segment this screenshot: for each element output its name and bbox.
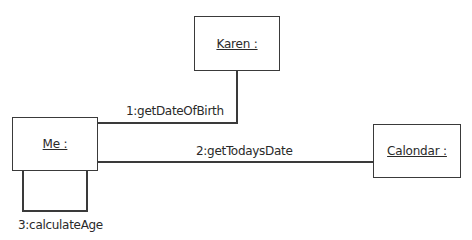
object-karen[interactable]: Karen :	[194, 16, 280, 71]
object-me[interactable]: Me :	[12, 117, 98, 171]
link-me-karen-vertical	[236, 70, 238, 124]
link-me-calendar	[97, 161, 374, 163]
message-calculate-age: 3:calculateAge	[18, 218, 103, 232]
self-loop-left	[22, 170, 24, 211]
object-me-label: Me :	[43, 137, 68, 151]
link-me-karen-horizontal	[97, 122, 238, 124]
self-loop-right	[86, 170, 88, 211]
message-get-todays-date: 2:getTodaysDate	[196, 144, 293, 158]
object-calendar-label: Calondar :	[387, 144, 447, 158]
self-loop-bottom	[22, 210, 88, 212]
message-get-date-of-birth: 1:getDateOfBirth	[126, 104, 224, 118]
object-karen-label: Karen :	[216, 37, 257, 51]
object-calendar[interactable]: Calondar :	[373, 124, 461, 178]
